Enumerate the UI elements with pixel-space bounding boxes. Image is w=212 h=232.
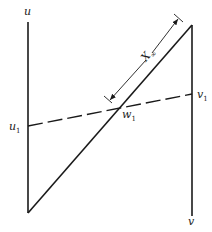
label-u: u (24, 5, 31, 18)
label-v1: v1 (197, 88, 208, 103)
diagonal-axis-w (28, 25, 192, 213)
label-u1: u1 (9, 120, 21, 135)
index-line-dashed (28, 94, 192, 126)
nomogram-diagram: u v u1 v1 w1 X∞ (0, 0, 212, 232)
label-v: v (188, 215, 195, 228)
label-w1: w1 (122, 108, 136, 123)
